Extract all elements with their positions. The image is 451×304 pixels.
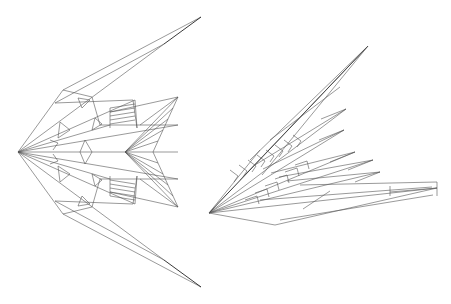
fold-line [297, 168, 299, 176]
fold-line [285, 168, 297, 172]
fold-line [125, 152, 178, 207]
fold-line [279, 160, 373, 177]
fold-line [63, 214, 201, 287]
fold-line [58, 166, 70, 174]
fold-line [53, 154, 58, 161]
fold-line [307, 161, 309, 169]
fold-line [240, 46, 368, 180]
fold-line [18, 152, 63, 214]
fold-line [261, 161, 265, 167]
fold-line [58, 130, 70, 138]
fold-line [18, 152, 178, 179]
fold-line [230, 170, 238, 176]
fold-line [164, 17, 201, 44]
left-figure [18, 17, 201, 287]
fold-line [80, 152, 85, 164]
fold-line [234, 176, 238, 182]
fold-line [321, 109, 346, 119]
fold-line [18, 152, 135, 204]
fold-line [125, 152, 173, 196]
right-figure [209, 46, 437, 225]
fold-line [58, 122, 60, 138]
fold-line [125, 108, 173, 152]
fold-line [270, 87, 340, 140]
fold-line [288, 146, 292, 152]
fold-line [287, 175, 289, 183]
fold-line [85, 152, 92, 164]
fold-line [297, 141, 301, 147]
fold-line [110, 108, 135, 112]
fold-line [267, 189, 269, 197]
fold-line [209, 109, 346, 213]
fold-line [287, 172, 380, 181]
fold-line [153, 97, 178, 152]
fold-line [80, 140, 85, 152]
fold-line [18, 90, 63, 152]
fold-line [55, 201, 164, 260]
fold-line [125, 152, 168, 185]
fold-line [293, 135, 301, 141]
fold-line [275, 188, 437, 225]
fold-line [18, 44, 164, 152]
fold-line [110, 192, 135, 196]
fold-line [60, 174, 70, 182]
fold-line [110, 180, 135, 184]
fold-line [18, 125, 178, 152]
fold-line [280, 195, 433, 220]
fold-line [153, 152, 178, 207]
fold-line [18, 152, 164, 260]
fold-line [275, 175, 287, 179]
fold-line [164, 260, 201, 287]
fold-line [262, 46, 368, 175]
fold-line [209, 152, 355, 213]
fold-line [53, 143, 58, 150]
fold-line [55, 100, 133, 103]
fold-line [63, 17, 201, 90]
fold-line [55, 44, 164, 103]
fold-line [110, 188, 135, 192]
fold-line [55, 201, 133, 204]
fold-line [85, 140, 92, 152]
fold-line [277, 182, 279, 190]
fold-line [58, 166, 60, 182]
fold-line [110, 120, 135, 124]
fold-line [348, 160, 373, 170]
fold-line [209, 213, 275, 225]
fold-line [125, 119, 168, 152]
line-drawing-canvas [0, 0, 451, 304]
fold-line [18, 100, 135, 152]
fold-line [110, 112, 135, 116]
fold-line [60, 122, 70, 130]
fold-line [78, 204, 90, 206]
fold-line [319, 130, 344, 140]
fold-line [110, 184, 135, 188]
fold-line [250, 46, 368, 160]
fold-line [266, 150, 274, 156]
fold-line [300, 182, 437, 185]
fold-line [330, 152, 355, 162]
fold-line [255, 189, 267, 193]
fold-line [125, 97, 178, 152]
fold-line [110, 116, 135, 120]
fold-line [78, 98, 90, 100]
